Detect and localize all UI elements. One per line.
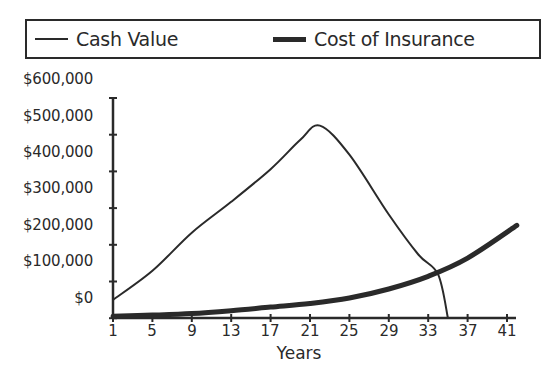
axes — [109, 98, 516, 322]
cash-value-line — [113, 125, 448, 318]
plot-area — [0, 0, 559, 382]
cost-of-insurance-line — [113, 225, 517, 316]
